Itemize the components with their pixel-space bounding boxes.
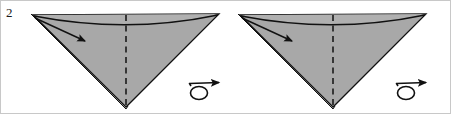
origami-diagram-canvas: 2 — [0, 0, 451, 114]
turn-over-loop — [398, 87, 415, 100]
turn-over-loop — [191, 87, 208, 100]
panel-after-fold — [238, 14, 426, 109]
turn-over-arrow — [190, 83, 220, 87]
turn-over-arrow — [397, 83, 427, 87]
turn-over-icon — [190, 83, 220, 100]
panel-before-fold — [31, 14, 219, 109]
step-number-label: 2 — [6, 5, 13, 20]
origami-figure: 2 — [1, 1, 451, 114]
turn-over-icon — [397, 83, 427, 100]
